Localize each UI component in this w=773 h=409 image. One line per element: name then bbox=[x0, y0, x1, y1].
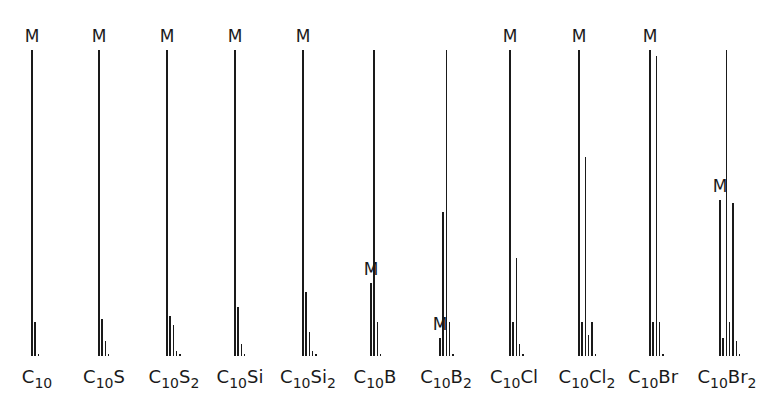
molecular-ion-marker: M bbox=[503, 28, 518, 45]
molecular-ion-marker: M bbox=[296, 28, 311, 45]
peak-bar bbox=[649, 50, 651, 356]
peak-bar bbox=[732, 203, 734, 356]
peak-bar bbox=[439, 338, 441, 356]
peak-bar bbox=[662, 354, 664, 356]
peak-bar bbox=[305, 292, 307, 356]
peak-bar bbox=[522, 354, 524, 356]
group-label: C10S bbox=[83, 367, 125, 387]
peak-bar bbox=[169, 316, 171, 356]
peak-bar bbox=[726, 50, 728, 356]
group-label: C10S2 bbox=[149, 367, 200, 387]
peak-bar bbox=[237, 307, 239, 356]
peak-bar bbox=[659, 322, 661, 356]
peak-bar bbox=[449, 322, 451, 356]
peak-bar bbox=[34, 322, 36, 356]
isotope-pattern-chart: MC10MC10SMC10S2MC10SiMC10Si2MC10BMC10B2M… bbox=[0, 0, 773, 409]
peak-bar bbox=[302, 50, 304, 356]
molecular-ion-marker: M bbox=[228, 28, 243, 45]
peak-bar bbox=[101, 319, 103, 356]
group-label: C10Cl bbox=[490, 367, 538, 387]
group-label: C10 bbox=[22, 367, 52, 387]
group-label: C10B2 bbox=[420, 367, 472, 387]
peak-bar bbox=[309, 332, 311, 356]
molecular-ion-marker: M bbox=[25, 28, 40, 45]
peak-bar bbox=[315, 354, 317, 356]
peak-bar bbox=[736, 341, 738, 356]
peak-bar bbox=[373, 50, 375, 356]
peak-bar bbox=[108, 354, 110, 356]
peak-bar bbox=[446, 50, 448, 356]
peak-bar bbox=[719, 200, 721, 356]
peak-bar bbox=[380, 354, 382, 356]
peak-bar bbox=[173, 325, 175, 356]
peak-bar bbox=[652, 322, 654, 356]
molecular-ion-marker: M bbox=[160, 28, 175, 45]
group-label: C10Si bbox=[217, 367, 264, 387]
peak-bar bbox=[588, 335, 590, 356]
peak-bar bbox=[452, 354, 454, 356]
peak-bar bbox=[442, 212, 444, 356]
peak-bar bbox=[38, 354, 40, 356]
molecular-ion-marker: M bbox=[92, 28, 107, 45]
peak-bar bbox=[581, 322, 583, 356]
peak-bar bbox=[176, 351, 178, 356]
peak-bar bbox=[739, 354, 741, 356]
group-label: C10Cl2 bbox=[559, 367, 616, 387]
molecular-ion-marker: M bbox=[643, 28, 658, 45]
peak-bar bbox=[31, 50, 33, 356]
peak-bar bbox=[244, 354, 246, 356]
peak-bar bbox=[591, 322, 593, 356]
peak-bar bbox=[377, 322, 379, 356]
group-label: C10Si2 bbox=[280, 367, 336, 387]
peak-bar bbox=[166, 50, 168, 356]
peak-bar bbox=[105, 341, 107, 356]
peak-bar bbox=[241, 344, 243, 356]
peak-bar bbox=[578, 50, 580, 356]
peak-bar bbox=[519, 344, 521, 356]
peak-bar bbox=[370, 283, 372, 356]
peak-bar bbox=[509, 50, 511, 356]
peak-bar bbox=[98, 50, 100, 356]
peak-bar bbox=[585, 157, 587, 356]
peak-bar bbox=[312, 351, 314, 356]
molecular-ion-marker: M bbox=[364, 261, 379, 278]
peak-bar bbox=[656, 56, 658, 356]
peak-bar bbox=[729, 322, 731, 356]
peak-bar bbox=[722, 338, 724, 356]
peak-bar bbox=[595, 354, 597, 356]
peak-bar bbox=[516, 258, 518, 356]
group-label: C10B bbox=[354, 367, 397, 387]
molecular-ion-marker: M bbox=[572, 28, 587, 45]
group-label: C10Br bbox=[628, 367, 678, 387]
peak-bar bbox=[512, 322, 514, 356]
group-label: C10Br2 bbox=[697, 367, 756, 387]
peak-bar bbox=[179, 354, 181, 356]
peak-bar bbox=[234, 50, 236, 356]
